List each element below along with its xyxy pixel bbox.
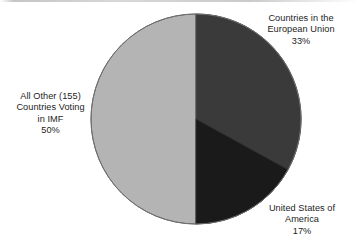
pie-label-united-states-line1: United States of <box>248 203 356 214</box>
pie-label-european-union-line2: European Union <box>246 24 356 35</box>
scan-artifact-line <box>0 0 358 2</box>
pie-label-united-states: United States of America 17% <box>248 203 356 237</box>
pie-label-all-other-line2: Countries Voting <box>0 102 101 113</box>
pie-label-european-union-line1: Countries in the <box>246 13 356 24</box>
pie-label-all-other: All Other (155) Countries Voting in IMF … <box>0 91 101 137</box>
pie-label-united-states-line2: America <box>248 214 356 225</box>
pie-label-all-other-line3: in IMF <box>0 114 101 125</box>
pie-chart-figure: Countries in the European Union 33% All … <box>0 0 358 249</box>
pie-slice-all-other <box>91 14 196 224</box>
pie-label-european-union: Countries in the European Union 33% <box>246 13 356 47</box>
pie-label-all-other-percent: 50% <box>0 125 101 136</box>
pie-label-all-other-line1: All Other (155) <box>0 91 101 102</box>
pie-label-united-states-percent: 17% <box>248 226 356 237</box>
pie-label-european-union-percent: 33% <box>246 36 356 47</box>
